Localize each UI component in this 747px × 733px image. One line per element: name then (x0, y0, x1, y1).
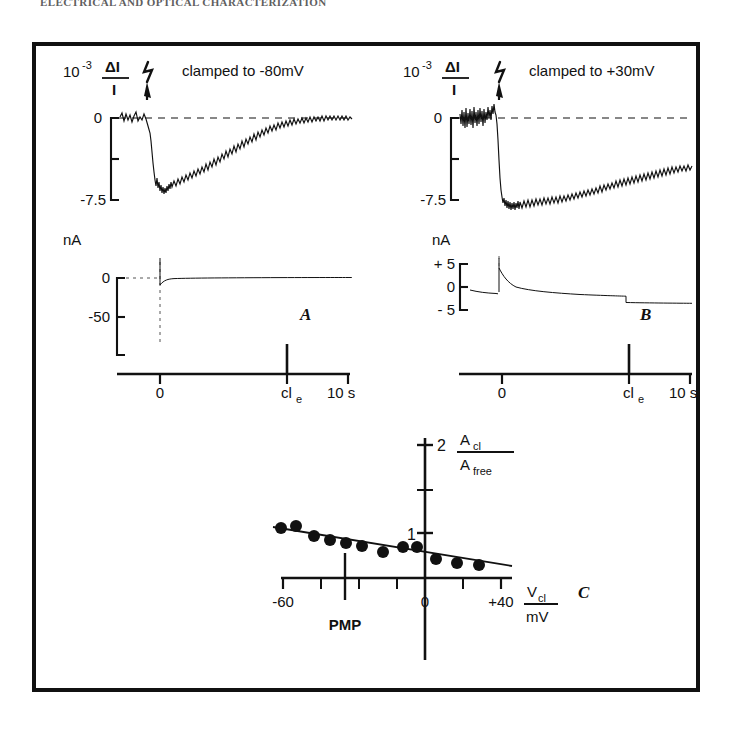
figure-frame (32, 42, 700, 692)
running-head: ELECTRICAL AND OPTICAL CHARACTERIZATION (40, 0, 640, 10)
